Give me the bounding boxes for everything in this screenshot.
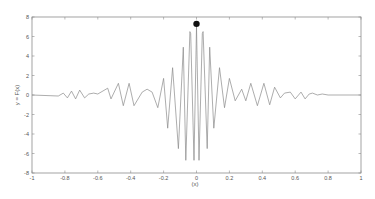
- y-tick-label: -4: [24, 131, 29, 137]
- x-axis-label: (x): [192, 181, 199, 187]
- x-tick-label: -0.8: [60, 175, 69, 181]
- x-tick-label: 0.8: [324, 175, 332, 181]
- x-tick-label: -0.6: [93, 175, 102, 181]
- x-tick-label: 0.4: [258, 175, 266, 181]
- y-tick-label: 4: [26, 53, 29, 59]
- x-tick-label: -0.2: [159, 175, 168, 181]
- x-tick-label: -1: [30, 175, 35, 181]
- y-axis-label: y = F(x): [14, 85, 20, 106]
- x-tick-label: 0.6: [291, 175, 299, 181]
- x-tick-label: 0.2: [226, 175, 234, 181]
- y-tick-label: -6: [24, 151, 29, 157]
- peak-marker-dot: [193, 21, 199, 27]
- x-tick-label: 1: [359, 175, 362, 181]
- chart: -1-0.8-0.6-0.4-0.200.20.40.60.81 -8-6-4-…: [0, 0, 375, 199]
- data-markers: [193, 21, 199, 27]
- y-tick-label: 6: [26, 34, 29, 40]
- y-tick-label: -2: [24, 112, 29, 118]
- y-tick-label: 2: [26, 73, 29, 79]
- x-tick-label: -0.4: [126, 175, 135, 181]
- y-tick-label: -8: [24, 170, 29, 176]
- y-tick-label: 0: [26, 92, 29, 98]
- y-tick-label: 8: [26, 14, 29, 20]
